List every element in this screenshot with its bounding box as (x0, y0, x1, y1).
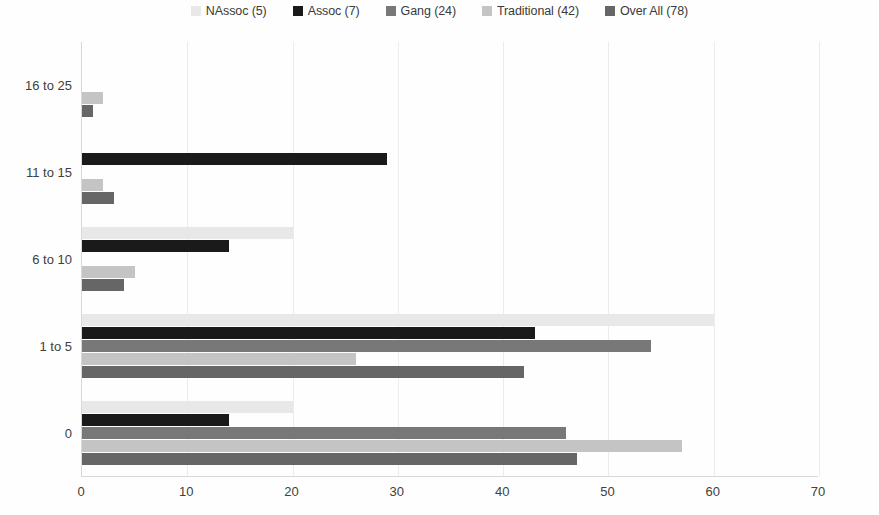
bar-row (82, 440, 818, 452)
bar-group (82, 53, 818, 118)
plot-area (81, 42, 818, 476)
bar-row (82, 279, 818, 291)
bar-row (82, 253, 818, 265)
bar[interactable] (82, 427, 566, 439)
x-axis-tick-label: 10 (179, 484, 193, 499)
x-axis-tick-label: 0 (77, 484, 84, 499)
y-axis-tick-label: 16 to 25 (2, 78, 72, 93)
bar-row (82, 366, 818, 378)
bar[interactable] (82, 279, 124, 291)
y-axis-tick-label: 1 to 5 (2, 338, 72, 353)
legend-label: Over All (78) (620, 4, 688, 18)
bar[interactable] (82, 414, 229, 426)
bar-row (82, 427, 818, 439)
bar[interactable] (82, 401, 293, 413)
bar-row (82, 240, 818, 252)
legend-entry[interactable]: Assoc (7) (293, 4, 360, 18)
bar-row (82, 453, 818, 465)
y-axis-tick-label: 6 to 10 (2, 252, 72, 267)
x-axis-line (81, 476, 818, 477)
bar-group (82, 140, 818, 205)
y-axis: 16 to 2511 to 156 to 101 to 50 (0, 42, 72, 476)
bar-group (82, 314, 818, 379)
bar-row (82, 179, 818, 191)
bar[interactable] (82, 179, 103, 191)
legend-swatch-icon (482, 6, 492, 16)
bar-row (82, 340, 818, 352)
bar[interactable] (82, 92, 103, 104)
legend-swatch-icon (293, 6, 303, 16)
x-axis-tick-label: 40 (495, 484, 509, 499)
legend-entry[interactable]: Gang (24) (386, 4, 456, 18)
chart-legend: NAssoc (5)Assoc (7)Gang (24)Traditional … (0, 4, 879, 18)
bar-row (82, 266, 818, 278)
legend-entry[interactable]: Over All (78) (605, 4, 688, 18)
x-axis-tick-label: 20 (284, 484, 298, 499)
bar-chart: NAssoc (5)Assoc (7)Gang (24)Traditional … (0, 0, 879, 515)
bar-row (82, 414, 818, 426)
bar[interactable] (82, 105, 93, 117)
bar[interactable] (82, 314, 714, 326)
bar[interactable] (82, 327, 535, 339)
legend-entry[interactable]: Traditional (42) (482, 4, 579, 18)
bar-row (82, 401, 818, 413)
bar-row (82, 140, 818, 152)
legend-label: NAssoc (5) (206, 4, 267, 18)
bar-row (82, 327, 818, 339)
bar-row (82, 105, 818, 117)
x-axis-tick-label: 30 (390, 484, 404, 499)
bar-row (82, 79, 818, 91)
legend-entry[interactable]: NAssoc (5) (191, 4, 267, 18)
legend-label: Gang (24) (401, 4, 456, 18)
bar[interactable] (82, 366, 524, 378)
y-axis-tick-label: 0 (2, 425, 72, 440)
legend-swatch-icon (191, 6, 201, 16)
bar[interactable] (82, 453, 577, 465)
x-axis-tick-label: 60 (705, 484, 719, 499)
bar[interactable] (82, 240, 229, 252)
bar[interactable] (82, 227, 293, 239)
legend-label: Traditional (42) (497, 4, 579, 18)
bar-row (82, 153, 818, 165)
bar-group (82, 401, 818, 466)
bar-row (82, 353, 818, 365)
bar[interactable] (82, 192, 114, 204)
bar[interactable] (82, 153, 387, 165)
legend-swatch-icon (386, 6, 396, 16)
legend-label: Assoc (7) (308, 4, 360, 18)
bar-row (82, 314, 818, 326)
bar-row (82, 92, 818, 104)
bar[interactable] (82, 266, 135, 278)
gridline (819, 42, 820, 476)
bar-group (82, 227, 818, 292)
bar-row (82, 66, 818, 78)
bar-row (82, 166, 818, 178)
bar[interactable] (82, 340, 651, 352)
y-axis-tick-label: 11 to 15 (2, 165, 72, 180)
bar-row (82, 227, 818, 239)
legend-swatch-icon (605, 6, 615, 16)
bar-row (82, 192, 818, 204)
bar-row (82, 53, 818, 65)
x-axis-tick-label: 70 (811, 484, 825, 499)
bar[interactable] (82, 440, 682, 452)
bar[interactable] (82, 353, 356, 365)
x-axis: 010203040506070 (81, 484, 818, 508)
x-axis-tick-label: 50 (600, 484, 614, 499)
